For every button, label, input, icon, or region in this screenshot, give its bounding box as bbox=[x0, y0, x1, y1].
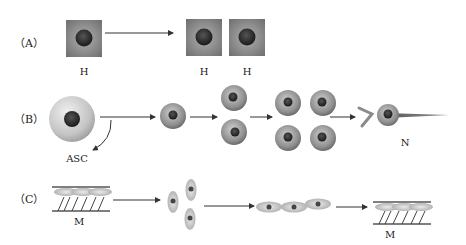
stem-cell bbox=[49, 96, 95, 142]
myofiber-start bbox=[52, 187, 112, 211]
curved-arrow bbox=[93, 120, 111, 150]
stem-cell-diagram: （A） H H H （B） ASC bbox=[0, 0, 466, 245]
square-cell bbox=[229, 19, 265, 56]
aligned-cells bbox=[256, 199, 331, 213]
cell-label-h: H bbox=[243, 66, 252, 77]
neuron-label: N bbox=[401, 137, 410, 148]
spindle-cells bbox=[168, 179, 197, 230]
myofiber-end bbox=[373, 202, 433, 224]
square-cell bbox=[186, 19, 222, 56]
progenitor-cell bbox=[160, 103, 186, 129]
panel-c: （C） M bbox=[14, 179, 433, 240]
myofiber-label: M bbox=[74, 216, 84, 227]
dividing-cells bbox=[221, 85, 247, 145]
panel-c-label: （C） bbox=[14, 193, 44, 206]
cell-label-h: H bbox=[200, 66, 209, 77]
panel-a: （A） H H H bbox=[14, 19, 265, 77]
square-cell bbox=[66, 20, 102, 57]
panel-b: （B） ASC N bbox=[14, 85, 450, 164]
panel-b-label: （B） bbox=[14, 113, 44, 126]
asc-label: ASC bbox=[65, 153, 88, 164]
panel-a-label: （A） bbox=[14, 37, 44, 50]
neuron bbox=[359, 104, 450, 126]
myofiber-label: M bbox=[385, 229, 395, 240]
cell-label-h: H bbox=[80, 66, 89, 77]
proliferated-cells bbox=[275, 90, 336, 151]
